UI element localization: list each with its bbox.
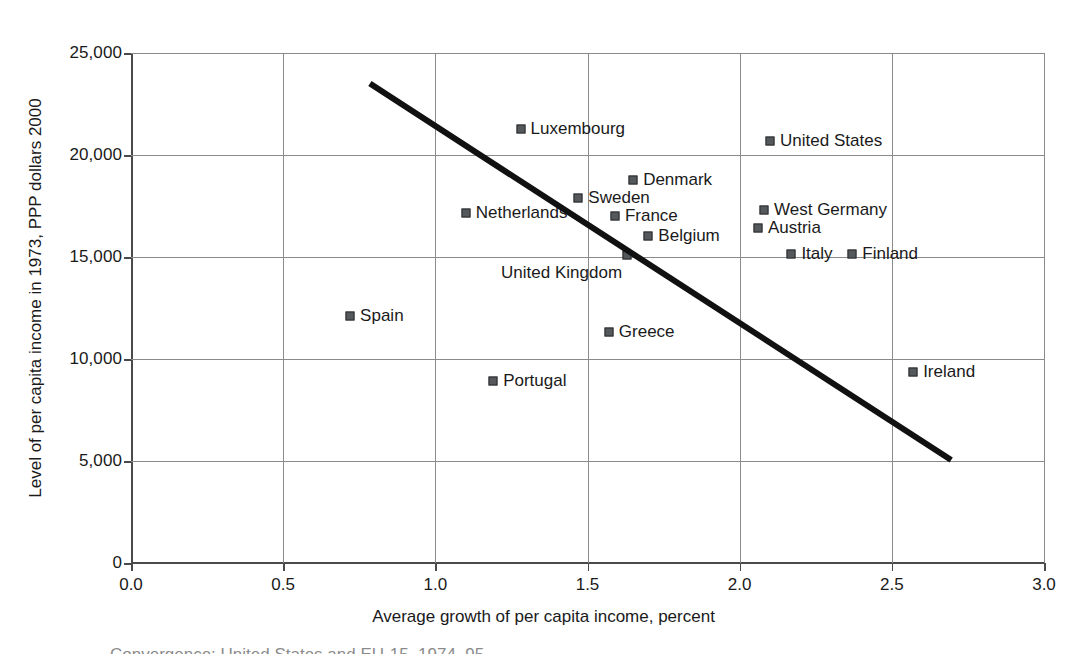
data-point-marker	[909, 368, 918, 377]
x-axis-tick	[283, 563, 285, 571]
data-point-marker	[623, 250, 632, 259]
gridline-vertical	[435, 53, 436, 563]
data-point-marker	[461, 208, 470, 217]
y-axis-tick-label: 25,000	[69, 43, 122, 63]
data-point-label: Denmark	[643, 170, 712, 190]
data-point-marker	[644, 231, 653, 240]
x-axis-tick	[435, 563, 437, 571]
data-point-marker	[753, 224, 762, 233]
data-point-label: Belgium	[658, 226, 719, 246]
y-axis-line	[131, 53, 133, 563]
data-point-marker	[610, 211, 619, 220]
data-point-marker	[489, 377, 498, 386]
data-point-label: France	[625, 206, 678, 226]
data-point-marker	[760, 206, 769, 215]
scatter-chart-figure: Level of per capita income in 1973, PPP …	[0, 0, 1087, 662]
y-axis-tick-labels: 05,00010,00015,00020,00025,000	[0, 53, 122, 563]
data-point-label: Portugal	[503, 371, 566, 391]
data-point-label: Netherlands	[476, 203, 568, 223]
plot-area: LuxembourgUnited StatesDenmarkSwedenWest…	[131, 53, 1044, 563]
x-axis-tick-label: 0.5	[271, 575, 295, 595]
data-point-label: Austria	[768, 218, 821, 238]
data-point-label: Spain	[360, 306, 403, 326]
x-axis-tick-label: 1.0	[424, 575, 448, 595]
x-axis-tick	[131, 563, 133, 571]
data-point-marker	[629, 176, 638, 185]
x-axis-tick	[588, 563, 590, 571]
gridline-vertical	[283, 53, 284, 563]
y-axis-tick	[124, 461, 131, 463]
y-axis-tick	[124, 563, 131, 565]
y-axis-tick	[124, 359, 131, 361]
y-axis-tick-label: 5,000	[79, 451, 122, 471]
y-axis-tick	[124, 257, 131, 259]
gridline-vertical	[1044, 53, 1045, 563]
x-axis-tick-label: 0.0	[119, 575, 143, 595]
x-axis-title: Average growth of per capita income, per…	[0, 607, 1087, 627]
data-point-label: Finland	[862, 244, 918, 264]
data-point-label: United States	[780, 131, 882, 151]
y-axis-tick-label: 15,000	[69, 247, 122, 267]
data-point-label: Greece	[619, 322, 675, 342]
data-point-marker	[574, 194, 583, 203]
y-axis-tick	[124, 155, 131, 157]
x-axis-tick-label: 2.0	[728, 575, 752, 595]
x-axis-tick	[1044, 563, 1046, 571]
data-point-marker	[848, 249, 857, 258]
data-point-marker	[346, 311, 355, 320]
x-axis-tick	[892, 563, 894, 571]
y-axis-tick	[124, 53, 131, 55]
x-axis-tick-label: 1.5	[576, 575, 600, 595]
data-point-label: Luxembourg	[531, 119, 626, 139]
data-point-marker	[604, 328, 613, 337]
x-axis-tick	[740, 563, 742, 571]
data-point-label: United Kingdom	[501, 263, 622, 283]
data-point-marker	[787, 249, 796, 258]
figure-caption: Convergence: United States and EU-15, 19…	[110, 645, 484, 662]
y-axis-tick-label: 10,000	[69, 349, 122, 369]
data-point-marker	[516, 125, 525, 134]
data-point-marker	[766, 136, 775, 145]
x-axis-tick-label: 2.5	[880, 575, 904, 595]
data-point-label: Italy	[801, 244, 832, 264]
y-axis-tick-label: 0	[112, 553, 122, 573]
gridline-vertical	[740, 53, 741, 563]
y-axis-tick-label: 20,000	[69, 145, 122, 165]
gridline-vertical	[892, 53, 893, 563]
data-point-label: Ireland	[923, 362, 975, 382]
x-axis-tick-label: 3.0	[1032, 575, 1056, 595]
